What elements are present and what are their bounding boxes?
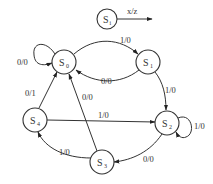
state-s1-name: S — [143, 57, 149, 68]
edge-label-s2-s2: 1/0 — [194, 121, 205, 131]
edge-s2-s3 — [114, 134, 162, 162]
state-s3-sub: 3 — [104, 163, 107, 169]
legend-state: S i — [97, 9, 117, 29]
transitions: 0/0 1/0 0/0 1/0 1/0 0/0 1/0 0/0 0/1 1/0 — [17, 35, 205, 164]
state-s2: S 2 — [155, 111, 179, 135]
edge-s4-s2 — [47, 120, 155, 122]
state-s0: S 0 — [52, 50, 76, 74]
state-s0-name: S — [59, 57, 65, 68]
state-s3: S 3 — [90, 150, 114, 174]
edge-s4-s0 — [39, 72, 57, 108]
state-s4-name: S — [30, 115, 36, 126]
edge-label-s1-s0: 0/0 — [101, 76, 112, 86]
state-diagram: S i x/z 0/0 1/0 0/0 1/0 1/0 0/0 1/0 0/0 — [0, 0, 213, 184]
state-s0-sub: 0 — [66, 63, 69, 69]
state-s3-name: S — [97, 157, 103, 168]
state-s4-sub: 4 — [37, 121, 40, 127]
legend: S i x/z — [97, 6, 152, 29]
edge-label-s3-s0: 0/0 — [82, 92, 93, 102]
edge-label-s2-s3: 0/0 — [143, 154, 154, 164]
legend-state-name: S — [103, 14, 109, 25]
state-s4: S 4 — [23, 108, 47, 132]
state-s1: S 1 — [136, 50, 160, 74]
edge-label-s0-s0: 0/0 — [17, 57, 28, 67]
edge-label-s1-s2: 1/0 — [165, 85, 176, 95]
edge-label-s4-s0: 0/1 — [25, 88, 36, 98]
edge-label-s0-s1: 1/0 — [120, 35, 131, 45]
legend-label: x/z — [127, 6, 138, 16]
edge-label-s3-s4: 1/0 — [59, 147, 70, 157]
edge-s3-s0 — [69, 74, 97, 151]
state-s2-sub: 2 — [169, 124, 172, 130]
state-s2-name: S — [162, 118, 168, 129]
edge-label-s4-s2: 1/0 — [98, 110, 109, 120]
state-s1-sub: 1 — [150, 63, 153, 69]
